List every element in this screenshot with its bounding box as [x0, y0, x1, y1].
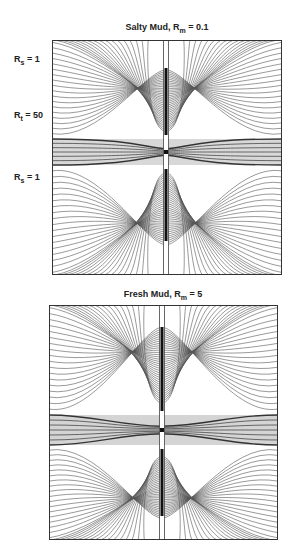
panel-title-fresh: Fresh Mud, Rm = 5 — [124, 289, 203, 301]
resistivity-label-2: Rt = 50 — [14, 110, 43, 122]
panel-title-salty: Salty Mud, Rm = 0.1 — [125, 22, 208, 34]
flow-lines-plot-fresh — [49, 305, 278, 540]
resistivity-label-3: Rs = 1 — [14, 172, 40, 184]
resistivity-label-1: Rs = 1 — [14, 54, 40, 66]
flow-lines-plot-salty — [52, 40, 282, 275]
